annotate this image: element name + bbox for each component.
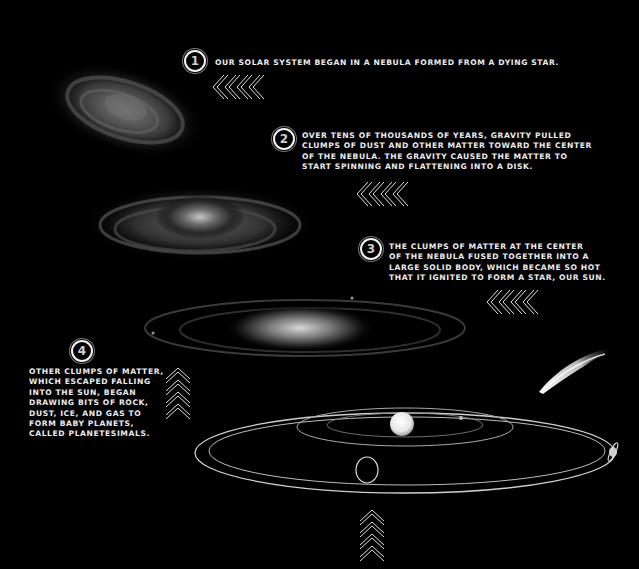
chevrons-up-icon: [359, 509, 385, 569]
chevrons-left-icon: [212, 74, 272, 100]
step-4-line: Other clumps of matter,: [29, 367, 164, 377]
planet-icon: [356, 457, 378, 483]
step-3-line: that it ignited to form a star, our sun.: [389, 273, 606, 283]
step-3-line: large solid body, which became so hot: [389, 263, 606, 273]
step-4-line: which escaped falling: [29, 377, 164, 387]
chevrons-left-icon: [486, 289, 546, 315]
step-3-text: The clumps of matter at the center of th…: [389, 242, 606, 284]
flattened-disk-image: [140, 288, 470, 368]
step-1-number-badge: 1: [184, 50, 206, 72]
step-3-number-badge: 3: [360, 238, 382, 260]
step-4-line: form baby planets,: [29, 419, 164, 429]
step-2-line: clumps of dust and other matter toward t…: [302, 141, 592, 151]
step-1-line: Our solar system began in a nebula forme…: [215, 58, 559, 68]
sun-icon: [390, 412, 414, 436]
step-4-line: drawing bits of rock,: [29, 398, 164, 408]
chevrons-up-icon: [165, 367, 191, 429]
step-2-line: of the nebula. The gravity caused the ma…: [302, 152, 592, 162]
comet-image: [535, 342, 615, 402]
step-4-line: dust, ice, and gas to: [29, 409, 164, 419]
small-planet-icon: [459, 416, 463, 420]
step-1-text: Our solar system began in a nebula forme…: [215, 58, 559, 68]
step-2-text: Over tens of thousands of years, gravity…: [302, 131, 592, 173]
chevrons-left-icon: [356, 181, 416, 207]
step-4-line: called planetesimals.: [29, 429, 164, 439]
step-4-number-badge: 4: [71, 340, 93, 362]
step-3-line: The clumps of matter at the center: [389, 242, 606, 252]
solar-system-orbits-image: [195, 405, 639, 505]
step-2-line: start spinning and flattening into a dis…: [302, 162, 592, 172]
step-2-number-badge: 2: [273, 128, 295, 150]
step-2-line: Over tens of thousands of years, gravity…: [302, 131, 592, 141]
step-3-line: of the nebula fused together into a: [389, 252, 606, 262]
step-4-text: Other clumps of matter, which escaped fa…: [29, 367, 164, 440]
step-4-line: into the sun, began: [29, 388, 164, 398]
spinning-disk-image: [75, 175, 325, 270]
